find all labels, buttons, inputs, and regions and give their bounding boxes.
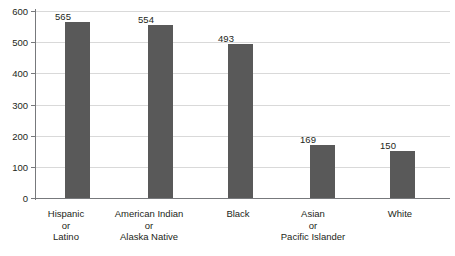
y-tick-mark-600 <box>31 11 35 12</box>
bar-value-label-hispanic-or-latino: 565 <box>42 12 84 22</box>
y-tick-mark-300 <box>31 105 35 106</box>
category-label-line: Asian <box>262 208 364 220</box>
category-label-line: White <box>358 208 442 220</box>
y-tick-mark-0 <box>31 198 35 199</box>
bar-value-label-white: 150 <box>367 141 409 151</box>
category-label-white: White <box>358 208 442 220</box>
category-label-asian-or-pacific-islander: Asian or Pacific Islander <box>262 208 364 243</box>
bar-hispanic-or-latino <box>65 22 90 198</box>
y-tick-label-0: 0 <box>0 194 28 204</box>
y-tick-mark-200 <box>31 136 35 137</box>
y-tick-label-200: 200 <box>0 132 28 142</box>
category-label-line: or <box>262 220 364 232</box>
category-label-line: American Indian <box>93 208 205 220</box>
y-tick-mark-100 <box>31 167 35 168</box>
y-tick-label-100: 100 <box>0 163 28 173</box>
category-label-american-indian-or-alaska-native: American Indian or Alaska Native <box>93 208 205 243</box>
bar-chart: 600 500 400 300 200 100 0 565 554 493 16… <box>0 0 455 256</box>
x-axis-line <box>35 198 450 199</box>
bar-value-label-american-indian-or-alaska-native: 554 <box>125 15 167 25</box>
bar-value-label-asian-or-pacific-islander: 169 <box>287 135 329 145</box>
category-label-line: or <box>93 220 205 232</box>
y-tick-mark-400 <box>31 73 35 74</box>
y-tick-label-600: 600 <box>0 7 28 17</box>
y-axis-line <box>35 9 36 200</box>
y-tick-label-500: 500 <box>0 38 28 48</box>
category-label-line: Alaska Native <box>93 231 205 243</box>
bar-black <box>228 44 253 198</box>
bar-asian-or-pacific-islander <box>310 145 335 198</box>
y-tick-mark-500 <box>31 42 35 43</box>
bar-american-indian-or-alaska-native <box>148 25 173 198</box>
category-label-line: Pacific Islander <box>262 231 364 243</box>
bar-value-label-black: 493 <box>205 34 247 44</box>
gridline-600 <box>35 11 450 12</box>
bar-white <box>390 151 415 198</box>
y-tick-label-400: 400 <box>0 69 28 79</box>
y-tick-label-300: 300 <box>0 101 28 111</box>
